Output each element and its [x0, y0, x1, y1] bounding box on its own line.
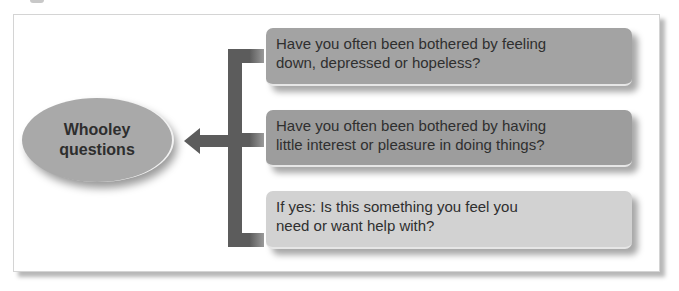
- question-1-line1: Have you often been bothered by feeling: [276, 34, 622, 53]
- question-2-line2: little interest or pleasure in doing thi…: [276, 135, 622, 154]
- node-label: Whooley questions: [59, 120, 135, 160]
- whooley-questions-node: Whooley questions: [22, 98, 172, 182]
- bracket-connector: [228, 49, 242, 247]
- connector-stub-1: [228, 49, 264, 63]
- node-label-line1: Whooley: [59, 120, 135, 140]
- question-box-2: Have you often been bothered by having l…: [266, 110, 632, 167]
- question-box-1: Have you often been bothered by feeling …: [266, 28, 632, 86]
- question-1-line2: down, depressed or hopeless?: [276, 53, 622, 72]
- question-3-line2: need or want help with?: [276, 216, 622, 235]
- question-box-3: If yes: Is this something you feel you n…: [266, 191, 632, 249]
- top-edge-mark: [30, 0, 44, 3]
- left-arrow-icon: [184, 128, 234, 154]
- connector-stub-3: [228, 233, 264, 247]
- connector-stub-2: [228, 133, 264, 147]
- question-3-line1: If yes: Is this something you feel you: [276, 197, 622, 216]
- node-label-line2: questions: [59, 140, 135, 160]
- question-2-line1: Have you often been bothered by having: [276, 116, 622, 135]
